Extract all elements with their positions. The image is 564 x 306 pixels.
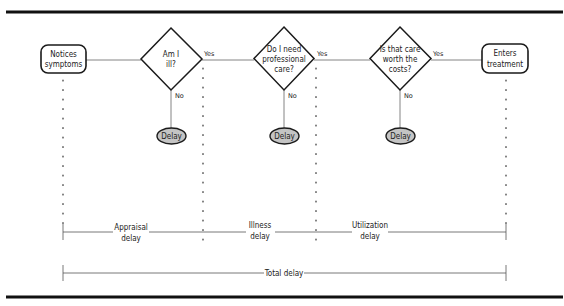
decision-1-no-label: No xyxy=(175,92,184,100)
decision-1-yes-label: Yes xyxy=(203,50,215,58)
decision-1-line2: ill? xyxy=(166,60,176,69)
illness-label-line1: Illness xyxy=(249,221,272,230)
decision-need-professional-care: Do I need professional care? Yes No Dela… xyxy=(254,27,328,144)
decision-2-yes-label: Yes xyxy=(316,50,328,58)
decision-2-no-label: No xyxy=(288,92,297,100)
span-appraisal-delay: Appraisal delay xyxy=(114,223,148,243)
total-delay-label: Total delay xyxy=(264,269,304,278)
decision-care-worth-costs: Is that care worth the costs? Yes No Del… xyxy=(370,27,444,144)
utilization-label-line2: delay xyxy=(360,232,380,241)
decision-3-line2: worth the xyxy=(383,55,418,64)
start-box-line2: symptoms xyxy=(45,60,83,69)
illness-label-line2: delay xyxy=(250,232,270,241)
decision-1-line1: Am I xyxy=(163,50,179,59)
decision-3-no-label: No xyxy=(404,92,413,100)
decision-3-line1: Is that care xyxy=(380,45,421,54)
utilization-label-line1: Utilization xyxy=(352,221,388,230)
decision-3-line3: costs? xyxy=(389,65,412,74)
start-box-notices-symptoms: Notices symptoms xyxy=(41,45,86,73)
end-box-line2: treatment xyxy=(487,60,523,69)
appraisal-label-line1: Appraisal xyxy=(114,223,148,232)
span-illness-delay: Illness delay xyxy=(249,221,272,241)
start-box-line1: Notices xyxy=(50,50,77,59)
decision-2-line3: care? xyxy=(274,65,294,74)
decision-am-i-ill: Am I ill? Yes No Delay xyxy=(141,28,215,144)
delay-node-3-label: Delay xyxy=(390,132,411,141)
delay-node-1-label: Delay xyxy=(161,132,182,141)
end-box-enters-treatment: Enters treatment xyxy=(482,44,528,73)
decision-3-yes-label: Yes xyxy=(432,50,444,58)
span-utilization-delay: Utilization delay xyxy=(352,221,388,241)
delay-node-2-label: Delay xyxy=(274,132,295,141)
decision-2-line2: professional xyxy=(262,55,306,64)
delay-model-diagram: Notices symptoms Enters treatment Am I i… xyxy=(0,0,564,306)
appraisal-label-line2: delay xyxy=(121,234,141,243)
end-box-line1: Enters xyxy=(493,49,516,58)
dotted-guides xyxy=(63,68,506,240)
decision-2-line1: Do I need xyxy=(267,45,302,54)
